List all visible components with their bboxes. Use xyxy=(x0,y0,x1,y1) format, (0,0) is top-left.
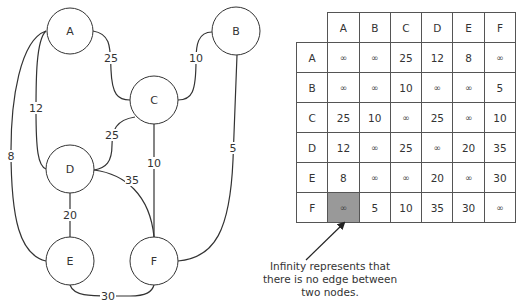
row-header-b: B xyxy=(297,73,328,103)
weight-a-c: 25 xyxy=(104,52,118,65)
matrix-cell: 25 xyxy=(390,133,421,163)
edge-a-e xyxy=(11,31,46,261)
node-e: E xyxy=(46,237,94,285)
matrix-cell: 30 xyxy=(484,163,515,193)
matrix-cell: ∞ xyxy=(390,163,421,193)
matrix-cell: ∞ xyxy=(359,163,390,193)
edge-a-c xyxy=(93,31,130,100)
weight-c-f: 10 xyxy=(147,157,161,170)
node-d-label: D xyxy=(66,163,74,176)
matrix-cell: 10 xyxy=(390,73,421,103)
node-a-label: A xyxy=(66,25,74,38)
node-b-label: B xyxy=(232,25,240,38)
node-f: F xyxy=(130,237,178,285)
matrix-cell: 25 xyxy=(328,103,359,133)
weight-e-f: 30 xyxy=(101,290,115,303)
matrix-cell: ∞ xyxy=(359,73,390,103)
matrix-cell: 35 xyxy=(422,193,453,223)
matrix-cell: 10 xyxy=(484,103,515,133)
weight-a-e: 8 xyxy=(8,150,15,163)
matrix-cell: 5 xyxy=(484,73,515,103)
node-a: A xyxy=(47,8,93,54)
matrix-cell: 8 xyxy=(453,43,484,73)
matrix-row-f: F ∞ 5 10 35 30 ∞ xyxy=(297,193,516,223)
matrix-row-d: D 12 ∞ 25 ∞ 20 35 xyxy=(297,133,516,163)
matrix-cell: ∞ xyxy=(453,163,484,193)
row-header-a: A xyxy=(297,43,328,73)
matrix-cell: 8 xyxy=(328,163,359,193)
row-header-e: E xyxy=(297,163,328,193)
row-header-d: D xyxy=(297,133,328,163)
matrix-cell: ∞ xyxy=(390,103,421,133)
matrix-cell: 25 xyxy=(422,103,453,133)
col-header-b: B xyxy=(359,13,390,43)
matrix-cell: 12 xyxy=(422,43,453,73)
matrix-row-e: E 8 ∞ ∞ 20 ∞ 30 xyxy=(297,163,516,193)
node-e-label: E xyxy=(67,255,74,268)
nodes: A B C D E F xyxy=(46,7,260,285)
row-header-c: C xyxy=(297,103,328,133)
col-header-f: F xyxy=(484,13,515,43)
matrix-cell: 35 xyxy=(484,133,515,163)
matrix-cell: ∞ xyxy=(484,43,515,73)
adjacency-matrix: A B C D E F A ∞ ∞ 25 12 8 ∞ B ∞ ∞ 10 ∞ ∞… xyxy=(296,12,516,223)
matrix-cell: ∞ xyxy=(422,73,453,103)
edge-b-c xyxy=(178,32,212,100)
col-header-e: E xyxy=(453,13,484,43)
annotation-line-2: there is no edge between xyxy=(250,273,410,286)
matrix-cell: ∞ xyxy=(359,43,390,73)
row-header-f: F xyxy=(297,193,328,223)
edge-weights: 25 12 8 10 5 25 10 20 35 30 xyxy=(6,52,238,303)
matrix-cell: ∞ xyxy=(484,193,515,223)
matrix-corner xyxy=(297,13,328,43)
matrix-header-row: A B C D E F xyxy=(297,13,516,43)
edge-d-f xyxy=(94,170,154,237)
matrix-cell: 25 xyxy=(390,43,421,73)
matrix-cell: 10 xyxy=(359,103,390,133)
matrix-cell: ∞ xyxy=(359,133,390,163)
weight-b-c: 10 xyxy=(189,52,203,65)
matrix-cell: ∞ xyxy=(328,43,359,73)
matrix-row-b: B ∞ ∞ 10 ∞ ∞ 5 xyxy=(297,73,516,103)
edge-c-d xyxy=(94,117,135,170)
annotation-line-3: two nodes. xyxy=(250,286,410,299)
infinity-annotation: Infinity represents that there is no edg… xyxy=(250,260,410,299)
matrix-row-c: C 25 10 ∞ 25 ∞ 10 xyxy=(297,103,516,133)
weight-d-e: 20 xyxy=(63,209,77,222)
highlighted-infinity-cell: ∞ xyxy=(328,193,359,223)
matrix-cell: ∞ xyxy=(453,103,484,133)
matrix-cell: 20 xyxy=(453,133,484,163)
edge-a-d xyxy=(36,31,46,169)
col-header-d: D xyxy=(422,13,453,43)
edges xyxy=(11,31,237,296)
weight-d-f: 35 xyxy=(125,174,139,187)
matrix-cell: 10 xyxy=(390,193,421,223)
weight-c-d: 25 xyxy=(105,129,119,142)
node-c: C xyxy=(130,76,178,124)
col-header-c: C xyxy=(390,13,421,43)
weighted-graph: 25 12 8 10 5 25 10 20 35 30 A B C xyxy=(0,0,290,308)
weight-b-f: 5 xyxy=(230,142,237,155)
node-d: D xyxy=(46,145,94,193)
matrix-cell: 5 xyxy=(359,193,390,223)
weight-a-d: 12 xyxy=(29,102,43,115)
matrix-row-a: A ∞ ∞ 25 12 8 ∞ xyxy=(297,43,516,73)
arrow-icon xyxy=(306,223,344,260)
annotation-line-1: Infinity represents that xyxy=(250,260,410,273)
matrix-cell: ∞ xyxy=(453,73,484,103)
matrix-cell: ∞ xyxy=(422,133,453,163)
col-header-a: A xyxy=(328,13,359,43)
node-b: B xyxy=(212,7,260,55)
matrix-cell: 12 xyxy=(328,133,359,163)
edge-b-f xyxy=(178,55,237,261)
matrix-cell: ∞ xyxy=(328,73,359,103)
matrix-cell: 20 xyxy=(422,163,453,193)
node-f-label: F xyxy=(151,255,157,268)
node-c-label: C xyxy=(150,94,158,107)
matrix-cell: 30 xyxy=(453,193,484,223)
